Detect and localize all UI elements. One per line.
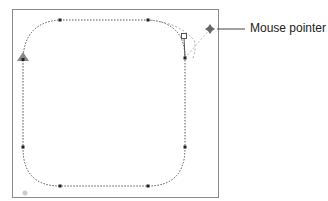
callout-label: Mouse pointer	[250, 21, 326, 35]
anchor-point[interactable]	[184, 57, 187, 60]
anchor-point[interactable]	[184, 146, 187, 149]
anchor-point[interactable]	[147, 185, 150, 188]
canvas-frame	[13, 10, 219, 198]
control-handle-icon[interactable]	[182, 34, 187, 39]
anchor-point[interactable]	[59, 19, 62, 22]
anchor-point[interactable]	[22, 146, 25, 149]
anchor-point[interactable]	[59, 185, 62, 188]
corner-mark	[23, 191, 28, 196]
anchor-point[interactable]	[147, 19, 150, 22]
